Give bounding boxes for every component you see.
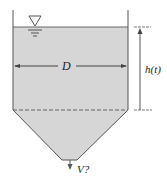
outflow-arrow-icon [68,160,73,170]
diameter-label: D [61,59,71,73]
height-label: h(t) [145,63,161,76]
tank-diagram: D h(t) V? [0,0,167,178]
liquid-region [13,27,128,160]
outflow-label: V? [77,163,90,175]
